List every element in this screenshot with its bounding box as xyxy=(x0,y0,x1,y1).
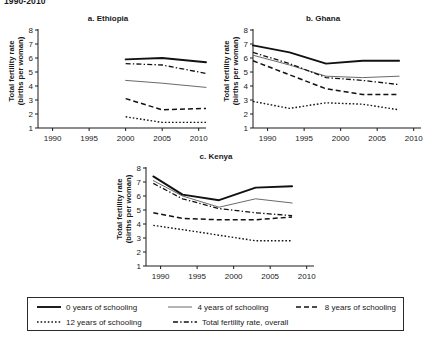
svg-text:2010: 2010 xyxy=(298,272,316,281)
legend-label-2: 8 years of schooling xyxy=(325,303,396,312)
svg-text:2: 2 xyxy=(244,110,249,119)
legend-item-2: 8 years of schooling xyxy=(295,302,396,312)
svg-text:7: 7 xyxy=(244,40,249,49)
svg-text:1990: 1990 xyxy=(259,134,277,143)
legend-swatch-4-icon xyxy=(172,317,198,327)
svg-text:7: 7 xyxy=(137,178,142,187)
svg-text:6: 6 xyxy=(29,54,34,63)
svg-text:1: 1 xyxy=(244,124,249,133)
svg-text:2: 2 xyxy=(137,248,142,257)
svg-text:2005: 2005 xyxy=(261,272,279,281)
legend-label-3: 12 years of schooling xyxy=(66,318,142,327)
plot-area-kenya: 1234567819901995200020052010 xyxy=(112,152,320,292)
svg-text:4: 4 xyxy=(244,82,249,91)
legend-item-4: Total fertility rate, overall xyxy=(172,317,288,327)
svg-text:1995: 1995 xyxy=(295,134,313,143)
legend-swatch-3-icon xyxy=(36,317,62,327)
svg-text:1: 1 xyxy=(137,262,142,271)
svg-text:3: 3 xyxy=(137,234,142,243)
legend-swatch-0-icon xyxy=(36,302,62,312)
svg-text:6: 6 xyxy=(137,192,142,201)
figure-title: 1990-2010 xyxy=(4,0,46,6)
svg-text:5: 5 xyxy=(244,68,249,77)
svg-text:8: 8 xyxy=(29,26,34,35)
svg-text:8: 8 xyxy=(137,164,142,173)
plot-area-ghana: 1234567819901995200020052010 xyxy=(219,14,427,154)
legend-swatch-2-icon xyxy=(295,302,321,312)
legend-label-1: 4 years of schooling xyxy=(197,303,268,312)
legend-label-0: 0 years of schooling xyxy=(66,303,137,312)
svg-text:1995: 1995 xyxy=(188,272,206,281)
svg-text:8: 8 xyxy=(244,26,249,35)
legend-row-2: 12 years of schooling Total fertility ra… xyxy=(36,314,396,330)
svg-text:5: 5 xyxy=(137,206,142,215)
svg-text:2005: 2005 xyxy=(153,134,171,143)
svg-text:6: 6 xyxy=(244,54,249,63)
svg-text:2010: 2010 xyxy=(190,134,208,143)
plot-area-ethiopia: 1234567819901995200020052010 xyxy=(4,14,212,154)
svg-text:5: 5 xyxy=(29,68,34,77)
legend-swatch-1-icon xyxy=(167,302,193,312)
svg-text:7: 7 xyxy=(29,40,34,49)
svg-text:2000: 2000 xyxy=(332,134,350,143)
svg-text:1990: 1990 xyxy=(44,134,62,143)
panel-ghana: b. Ghana Total fertility rate (births pe… xyxy=(219,14,427,154)
panel-kenya: c. Kenya Total fertility rate (births pe… xyxy=(112,152,320,292)
legend-item-0: 0 years of schooling xyxy=(36,302,167,312)
svg-text:2005: 2005 xyxy=(368,134,386,143)
svg-text:2: 2 xyxy=(29,110,34,119)
svg-text:1995: 1995 xyxy=(80,134,98,143)
figure-container: 1990-2010 a. Ethiopia Total fertility ra… xyxy=(0,0,431,342)
legend-item-3: 12 years of schooling xyxy=(36,317,172,327)
svg-text:1: 1 xyxy=(29,124,34,133)
svg-text:2000: 2000 xyxy=(117,134,135,143)
legend-item-1: 4 years of schooling xyxy=(167,302,294,312)
legend-label-4: Total fertility rate, overall xyxy=(202,318,288,327)
svg-text:4: 4 xyxy=(137,220,142,229)
legend-box: 0 years of schooling 4 years of schoolin… xyxy=(27,297,404,331)
svg-text:3: 3 xyxy=(29,96,34,105)
svg-text:2000: 2000 xyxy=(225,272,243,281)
panel-ethiopia: a. Ethiopia Total fertility rate (births… xyxy=(4,14,212,154)
svg-text:1990: 1990 xyxy=(152,272,170,281)
svg-text:3: 3 xyxy=(244,96,249,105)
legend-row-1: 0 years of schooling 4 years of schoolin… xyxy=(36,299,396,315)
svg-text:2010: 2010 xyxy=(405,134,423,143)
svg-text:4: 4 xyxy=(29,82,34,91)
